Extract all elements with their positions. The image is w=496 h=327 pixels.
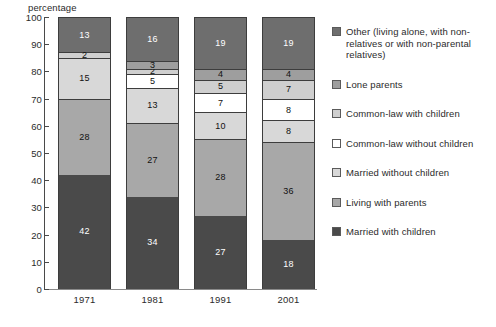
legend-item[interactable]: Common-law without children bbox=[332, 138, 492, 150]
y-axis-tick-mark bbox=[44, 44, 49, 45]
y-axis-tick-label: 60 bbox=[2, 120, 42, 131]
bar-segment[interactable]: 27 bbox=[127, 123, 178, 196]
bar-segment[interactable]: 19 bbox=[195, 17, 246, 69]
bar-segment[interactable]: 13 bbox=[59, 17, 110, 52]
bar-segment[interactable]: 28 bbox=[195, 139, 246, 215]
legend-item[interactable]: Other (living alone, with non-relatives … bbox=[332, 26, 492, 61]
bar-segment-value: 4 bbox=[218, 70, 223, 79]
legend-label: Married with children bbox=[346, 226, 436, 238]
legend-item[interactable]: Common-law with children bbox=[332, 108, 492, 120]
y-axis-tick-mark bbox=[44, 17, 49, 18]
bar-segment-value: 27 bbox=[215, 248, 225, 257]
x-axis-label: 1981 bbox=[126, 294, 179, 305]
bar-segment[interactable]: 36 bbox=[263, 142, 314, 240]
bar-segment-value: 19 bbox=[283, 39, 293, 48]
bar-segment[interactable]: 13 bbox=[127, 88, 178, 123]
legend-item[interactable]: Living with parents bbox=[332, 197, 492, 209]
bar-1991[interactable]: 27281075419 bbox=[194, 17, 247, 289]
legend-label: Married without children bbox=[346, 167, 449, 179]
bar-segment-value: 16 bbox=[147, 35, 157, 44]
bar-segment[interactable]: 18 bbox=[263, 240, 314, 289]
bar-segment[interactable]: 5 bbox=[195, 80, 246, 94]
y-axis-tick-label: 40 bbox=[2, 175, 42, 186]
bar-segment-value: 8 bbox=[286, 127, 291, 136]
bar-segment[interactable]: 7 bbox=[263, 80, 314, 99]
bar-segment[interactable]: 7 bbox=[195, 93, 246, 112]
y-axis-tick-mark bbox=[44, 207, 49, 208]
bar-segment[interactable]: 19 bbox=[263, 17, 314, 69]
bar-segment-value: 13 bbox=[79, 31, 89, 40]
y-axis-tick-label: 0 bbox=[2, 284, 42, 295]
bar-segment-value: 28 bbox=[215, 173, 225, 182]
legend-item[interactable]: Married without children bbox=[332, 167, 492, 179]
bar-1971[interactable]: 422815213 bbox=[58, 17, 111, 289]
bar-segment[interactable]: 8 bbox=[263, 120, 314, 142]
bar-segment-value: 34 bbox=[147, 238, 157, 247]
legend-label: Living with parents bbox=[346, 197, 427, 209]
bar-segment-value: 8 bbox=[286, 106, 291, 115]
bar-segment[interactable]: 8 bbox=[263, 99, 314, 121]
bar-segment-value: 5 bbox=[150, 77, 155, 86]
y-axis-tick-mark bbox=[44, 71, 49, 72]
legend-swatch-icon bbox=[332, 227, 341, 236]
stacked-bar-chart: percentage 0102030405060708090100 422815… bbox=[0, 0, 496, 327]
y-axis-tick-mark bbox=[44, 99, 49, 100]
bar-segment-value: 36 bbox=[283, 187, 293, 196]
y-axis-tick-label: 20 bbox=[2, 229, 42, 240]
y-axis-tick-mark bbox=[44, 180, 49, 181]
x-axis-label: 1991 bbox=[194, 294, 247, 305]
legend-swatch-icon bbox=[332, 198, 341, 207]
y-axis-tick-mark bbox=[44, 153, 49, 154]
bar-segment[interactable]: 34 bbox=[127, 197, 178, 289]
bar-segment[interactable]: 3 bbox=[127, 61, 178, 69]
plot-area: 0102030405060708090100 42281521334271352… bbox=[44, 17, 317, 289]
bar-segment-value: 2 bbox=[82, 51, 87, 60]
bar-segment-value: 7 bbox=[218, 99, 223, 108]
y-axis-tick-label: 70 bbox=[2, 93, 42, 104]
x-axis-line bbox=[44, 289, 317, 290]
legend-item[interactable]: Married with children bbox=[332, 226, 492, 238]
legend-label: Lone parents bbox=[346, 79, 403, 91]
bar-segment-value: 15 bbox=[79, 74, 89, 83]
bar-segment[interactable]: 4 bbox=[263, 69, 314, 80]
x-axis-label: 1971 bbox=[58, 294, 111, 305]
bar-2001[interactable]: 1836887419 bbox=[262, 17, 315, 289]
y-axis-tick-label: 100 bbox=[2, 12, 42, 23]
bar-segment-value: 7 bbox=[286, 85, 291, 94]
y-axis-tick-label: 10 bbox=[2, 256, 42, 267]
y-axis-tick-mark bbox=[44, 126, 49, 127]
bar-segment-value: 28 bbox=[79, 133, 89, 142]
bar-segment-value: 18 bbox=[283, 260, 293, 269]
legend-swatch-icon bbox=[332, 168, 341, 177]
bar-segment[interactable]: 10 bbox=[195, 112, 246, 139]
bar-segment[interactable]: 16 bbox=[127, 17, 178, 61]
legend-label: Other (living alone, with non-relatives … bbox=[346, 26, 492, 61]
bar-segment[interactable]: 42 bbox=[59, 175, 110, 289]
legend-swatch-icon bbox=[332, 139, 341, 148]
bar-segment-value: 42 bbox=[79, 227, 89, 236]
y-axis-tick-label: 90 bbox=[2, 39, 42, 50]
y-axis-tick-mark bbox=[44, 235, 49, 236]
legend-swatch-icon bbox=[332, 27, 341, 36]
bar-segment[interactable]: 2 bbox=[59, 52, 110, 57]
bar-segment-value: 13 bbox=[147, 101, 157, 110]
bar-1981[interactable]: 34271352316 bbox=[126, 17, 179, 289]
bar-segment[interactable]: 4 bbox=[195, 69, 246, 80]
x-axis-label: 2001 bbox=[262, 294, 315, 305]
bar-segment-value: 10 bbox=[215, 122, 225, 131]
y-axis-tick-label: 80 bbox=[2, 66, 42, 77]
chart-legend: Other (living alone, with non-relatives … bbox=[332, 26, 492, 238]
legend-swatch-icon bbox=[332, 80, 341, 89]
legend-swatch-icon bbox=[332, 109, 341, 118]
bar-segment[interactable]: 15 bbox=[59, 58, 110, 99]
legend-label: Common-law without children bbox=[346, 138, 473, 150]
legend-item[interactable]: Lone parents bbox=[332, 79, 492, 91]
bar-segment-value: 27 bbox=[147, 156, 157, 165]
legend-label: Common-law with children bbox=[346, 108, 460, 120]
y-axis-tick-mark bbox=[44, 262, 49, 263]
bar-segment[interactable]: 27 bbox=[195, 216, 246, 289]
bar-segment[interactable]: 28 bbox=[59, 99, 110, 175]
bar-segment-value: 4 bbox=[286, 70, 291, 79]
y-axis-tick-label: 50 bbox=[2, 148, 42, 159]
y-axis-tick-mark bbox=[44, 289, 49, 290]
